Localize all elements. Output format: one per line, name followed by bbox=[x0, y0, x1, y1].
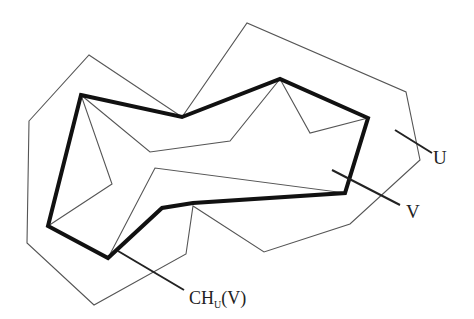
polygon-u bbox=[27, 23, 420, 305]
relative-convex-hull bbox=[48, 79, 368, 258]
label-v: V bbox=[406, 201, 420, 222]
label-hull-rest: (V) bbox=[221, 288, 246, 309]
leader-line-u bbox=[395, 130, 432, 153]
leader-line-hull bbox=[118, 251, 184, 290]
label-u: U bbox=[433, 147, 447, 168]
label-hull: CHU(V) bbox=[189, 288, 246, 310]
convex-hull-diagram: U V CHU(V) bbox=[0, 0, 474, 319]
label-hull-base: CH bbox=[189, 288, 214, 308]
